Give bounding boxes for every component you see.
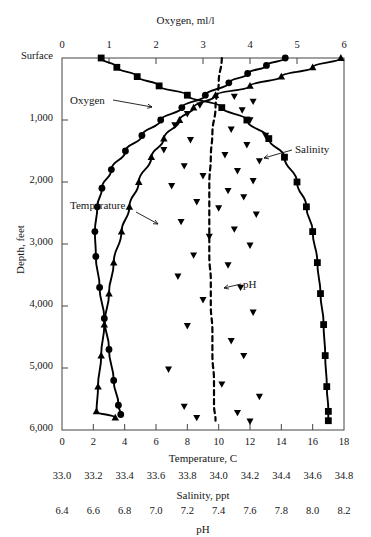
data-point: [240, 194, 247, 200]
data-point: [294, 179, 301, 186]
data-point: [221, 152, 228, 158]
y-tick-label-0: Surface: [21, 50, 53, 61]
bottom-tick-label-ph-8: 8.0: [306, 505, 319, 516]
data-point: [190, 252, 197, 258]
bottom-axis-title-salinity: Salinity, ppt: [62, 489, 344, 501]
data-point: [250, 178, 257, 184]
bottom-tick-label-ph-5: 7.4: [212, 505, 225, 516]
oxygen-leader: [113, 100, 152, 107]
top-tick-label-2: 2: [153, 39, 158, 50]
bottom-tick-label-salinity-4: 33.8: [178, 470, 196, 481]
bottom-axis-title-temperature: Temperature, C: [62, 452, 344, 464]
data-point: [250, 99, 257, 105]
y-tick-label-3: 3,000: [29, 236, 53, 247]
data-point: [126, 203, 133, 210]
plot-frame: [62, 58, 344, 430]
data-point: [218, 104, 225, 111]
y-tick-label-4: 4,000: [29, 298, 53, 309]
data-point: [93, 407, 100, 414]
data-point: [206, 234, 213, 240]
top-tick-label-5: 5: [294, 39, 299, 50]
data-point: [250, 309, 257, 315]
data-point: [282, 55, 289, 62]
data-point: [168, 183, 175, 189]
data-point: [139, 132, 146, 139]
data-point: [317, 290, 324, 297]
data-point: [113, 64, 120, 71]
data-point: [122, 148, 129, 155]
data-point: [309, 228, 316, 235]
data-point: [225, 262, 232, 268]
data-point: [178, 104, 185, 111]
temperature-curve-label: Temperature: [70, 199, 125, 211]
data-point: [215, 205, 222, 211]
data-point: [108, 166, 115, 173]
data-point: [199, 297, 206, 303]
data-point: [253, 212, 260, 218]
data-point: [174, 274, 181, 280]
data-point: [225, 188, 232, 194]
bottom-tick-label-ph-3: 7.0: [149, 505, 162, 516]
data-point: [193, 415, 200, 421]
data-point: [118, 228, 125, 235]
top-tick-label-0: 0: [59, 39, 64, 50]
bottom-tick-label-temperature-7: 14: [276, 436, 287, 447]
data-point: [105, 290, 112, 297]
bottom-tick-label-temperature-9: 18: [339, 436, 350, 447]
data-point: [234, 410, 241, 416]
data-point: [243, 142, 250, 148]
data-point: [106, 346, 113, 353]
bottom-tick-label-salinity-3: 33.6: [147, 470, 165, 481]
bottom-tick-label-salinity-8: 34.6: [303, 470, 321, 481]
data-point: [278, 73, 285, 80]
data-point: [202, 92, 209, 99]
data-point: [181, 404, 188, 410]
data-point: [263, 62, 270, 69]
data-point: [256, 394, 263, 400]
bottom-tick-label-temperature-4: 8: [185, 436, 190, 447]
bottom-tick-label-temperature-2: 4: [122, 436, 127, 447]
y-tick-label-6: 6,000: [29, 422, 53, 433]
data-point: [148, 153, 155, 160]
data-point: [101, 321, 108, 328]
data-point: [228, 338, 235, 344]
data-point: [187, 137, 194, 143]
bottom-tick-label-ph-7: 7.8: [275, 505, 288, 516]
series-ph: [160, 58, 269, 425]
data-point: [246, 243, 253, 249]
bottom-tick-label-salinity-5: 34.0: [209, 470, 227, 481]
data-point: [178, 219, 185, 225]
depth-profile-chart: Oxygen, ml/l Depth, feet Oxygen Temperat…: [0, 0, 371, 537]
data-point: [181, 163, 188, 169]
data-point: [225, 79, 232, 86]
data-point: [156, 83, 163, 90]
data-point: [244, 70, 251, 77]
series-line-ph: [209, 58, 222, 421]
data-point: [135, 178, 142, 185]
data-point: [134, 73, 141, 80]
bottom-tick-label-temperature-5: 10: [213, 436, 224, 447]
bottom-tick-label-salinity-6: 34.2: [241, 470, 259, 481]
data-point: [246, 419, 253, 425]
data-point: [184, 92, 191, 99]
data-point: [325, 408, 332, 415]
data-point: [281, 154, 288, 161]
series-line-temperature: [97, 58, 341, 418]
data-point: [234, 168, 241, 174]
data-point: [337, 54, 344, 61]
bottom-tick-label-ph-1: 6.6: [87, 505, 100, 516]
top-tick-label-4: 4: [247, 39, 252, 50]
data-point: [115, 402, 122, 409]
bottom-tick-label-salinity-0: 33.0: [53, 470, 71, 481]
salinity-curve-label: Salinity: [295, 143, 329, 155]
data-point: [94, 383, 101, 390]
bottom-tick-label-ph-0: 6.4: [55, 505, 68, 516]
bottom-tick-label-ph-9: 8.2: [337, 505, 350, 516]
ph-curve-label: pH: [243, 278, 256, 290]
bottom-tick-label-temperature-8: 16: [307, 436, 318, 447]
data-point: [92, 253, 99, 260]
data-point: [160, 147, 167, 153]
data-point: [325, 417, 332, 424]
data-point: [320, 321, 327, 328]
data-point: [228, 127, 235, 133]
